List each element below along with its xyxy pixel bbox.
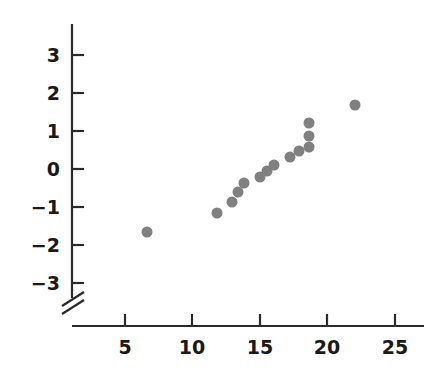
data-points-layer (0, 0, 446, 368)
data-point (268, 159, 279, 170)
data-point (141, 227, 152, 238)
data-point (211, 208, 222, 219)
data-point (303, 118, 314, 129)
data-point (226, 197, 237, 208)
chart-figure: 3 2 1 0 −1 −2 −3 5 10 15 20 25 (0, 0, 446, 368)
data-point (349, 100, 360, 111)
data-point (238, 178, 249, 189)
scatter-plot-area: 3 2 1 0 −1 −2 −3 5 10 15 20 25 (0, 0, 446, 368)
data-point (303, 130, 314, 141)
data-point (303, 141, 314, 152)
